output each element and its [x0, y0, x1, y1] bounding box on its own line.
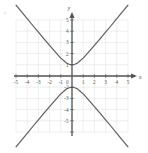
- y-tick-label: 5: [66, 17, 69, 23]
- x-tick-label: -2: [47, 79, 52, 85]
- x-tick-label: 3: [104, 79, 107, 85]
- x-tick-label: -3: [36, 79, 41, 85]
- x-tick-label: -4: [25, 79, 30, 85]
- y-tick-label: -4: [64, 107, 69, 113]
- x-tick-label: 4: [116, 79, 119, 85]
- x-axis-label: x: [138, 74, 142, 80]
- y-tick-label: 3: [66, 39, 69, 45]
- x-tick-label: -5: [14, 79, 19, 85]
- y-tick-label: 2: [66, 51, 69, 57]
- y-tick-label: -3: [64, 95, 69, 101]
- y-axis-label: y: [67, 5, 71, 11]
- origin-label: 0: [66, 79, 69, 85]
- coordinate-plane: -5 -4 -3 -2 -1 1 2 3 4 5 5 4 3 2 1 -2 -3…: [0, 0, 148, 153]
- y-tick-label: 4: [66, 28, 69, 34]
- x-tick-label: 2: [93, 79, 96, 85]
- x-tick-label: 5: [127, 79, 130, 85]
- hyperbola-graph-figure: -5 -4 -3 -2 -1 1 2 3 4 5 5 4 3 2 1 -2 -3…: [0, 0, 148, 153]
- x-tick-label: 1: [82, 79, 85, 85]
- x-tick-label: -1: [59, 79, 64, 85]
- y-tick-label: -5: [64, 118, 69, 124]
